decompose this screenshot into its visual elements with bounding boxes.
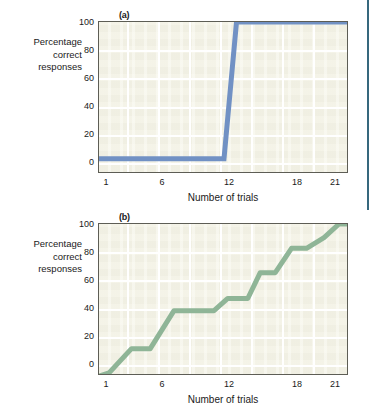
panel-b-xtick-6: 6 bbox=[149, 379, 175, 389]
panel-a-x-axis-title: Number of trials bbox=[98, 192, 348, 203]
panel-a-ytick-20: 20 bbox=[68, 129, 94, 139]
panel-b-ytick-0: 0 bbox=[68, 359, 94, 369]
panel-b-y-axis-title-line-3: responses bbox=[0, 263, 82, 276]
panel-a-ytick-60: 60 bbox=[68, 73, 94, 83]
panel-a-xtick-18: 18 bbox=[284, 177, 310, 187]
panel-a-ytick-40: 40 bbox=[68, 101, 94, 111]
panel-a-series-line bbox=[99, 22, 348, 173]
panel-a-ytick-100: 100 bbox=[68, 17, 94, 27]
panel-a-xtick-1: 1 bbox=[93, 177, 119, 187]
panel-b-x-axis-title: Number of trials bbox=[98, 394, 348, 405]
panel-a: (a) Percentage correct responses 100 80 … bbox=[0, 10, 360, 210]
figure-canvas: (a) Percentage correct responses 100 80 … bbox=[0, 0, 373, 418]
panel-b-xtick-1: 1 bbox=[93, 379, 119, 389]
panel-b-xtick-18: 18 bbox=[284, 379, 310, 389]
panel-b-letter: (b) bbox=[119, 212, 130, 222]
panel-b: (b) Percentage correct responses 100 80 … bbox=[0, 212, 360, 418]
panel-a-xtick-12: 12 bbox=[216, 177, 242, 187]
panel-a-ytick-0: 0 bbox=[68, 157, 94, 167]
panel-a-xtick-21: 21 bbox=[322, 177, 348, 187]
panel-b-series-line bbox=[99, 224, 348, 375]
panel-a-plot-area bbox=[98, 21, 348, 173]
panel-b-plot-area bbox=[98, 223, 348, 375]
panel-b-ytick-60: 60 bbox=[68, 275, 94, 285]
page-edge-rule bbox=[367, 0, 369, 210]
panel-a-xtick-6: 6 bbox=[149, 177, 175, 187]
panel-b-xtick-21: 21 bbox=[322, 379, 348, 389]
panel-b-ytick-100: 100 bbox=[68, 219, 94, 229]
panel-a-letter: (a) bbox=[119, 10, 129, 20]
panel-b-xtick-12: 12 bbox=[216, 379, 242, 389]
panel-a-ytick-80: 80 bbox=[68, 45, 94, 55]
panel-b-ytick-20: 20 bbox=[68, 331, 94, 341]
panel-b-ytick-40: 40 bbox=[68, 303, 94, 313]
panel-b-ytick-80: 80 bbox=[68, 247, 94, 257]
panel-a-y-axis-title-line-3: responses bbox=[0, 61, 82, 74]
